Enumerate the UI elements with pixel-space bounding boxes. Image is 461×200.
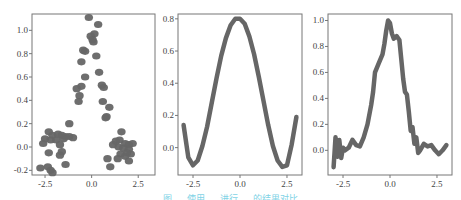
scatter-point [36,164,44,171]
scatter-point [117,128,125,135]
x-tick-label: -2.5 [38,179,53,189]
y-tick-label: 0.0 [163,143,175,153]
scatter-point [39,140,47,147]
x-tick-label: 0.0 [384,179,396,189]
scatter-point [56,152,64,159]
figure: -2.50.02.5-0.20.00.20.40.60.81.0 -2.50.0… [0,0,461,200]
y-tick-label: -0.2 [14,165,28,175]
scatter-point [106,163,114,170]
scatter-point [74,98,82,105]
scatter-point [100,84,108,91]
scatter-point [45,149,53,156]
x-tick-label: 2.5 [281,179,293,189]
scatter-point [81,48,89,55]
y-tick-label: 0.4 [163,78,175,88]
scatter-point [81,73,89,80]
scatter-point [73,85,81,92]
scatter-point [103,155,111,162]
y-tick-label: 0.4 [17,95,29,105]
y-tick-label: 0.6 [163,46,175,56]
axes-frame [178,14,302,175]
y-tick-label: 0.0 [17,142,29,152]
x-tick-label: 2.5 [133,179,145,189]
y-tick-label: 0.6 [313,67,325,77]
scatter-point [56,141,64,148]
y-tick-label: 1.0 [313,15,325,25]
scatter-point [99,98,107,105]
scatter-point [48,169,56,176]
scatter-point [69,134,77,141]
scatter-point [89,38,97,45]
scatter-point [114,155,122,162]
x-tick-label: 2.5 [431,179,443,189]
scatter-point [125,157,133,164]
data-line [334,21,447,168]
x-tick-label: 0.0 [86,179,98,189]
scatter-point [61,161,69,168]
y-tick-label: 0.6 [17,72,29,82]
scatter-point [77,58,85,65]
x-tick-label: -2.5 [186,179,201,189]
y-tick-label: 0.8 [313,41,325,51]
y-tick-label: 1.0 [17,25,29,35]
y-tick-label: 0.4 [313,93,325,103]
y-tick-label: 0.8 [163,14,175,24]
chart-canvas: -2.50.02.5-0.20.00.20.40.60.81.0 -2.50.0… [0,0,461,200]
figure-caption: 图 … 使用 … 进行 … 的结果对比 [0,193,461,200]
y-tick-label: 0.2 [313,119,324,129]
x-tick-label: 0.0 [234,179,246,189]
panel-noisy-curve: -2.50.02.50.00.20.40.60.81.0 [313,14,452,189]
scatter-point [65,120,73,127]
scatter-point [101,114,109,121]
y-tick-label: 0.2 [163,110,174,120]
scatter-point [105,104,113,111]
data-line [184,19,297,167]
panel-smooth-curve: -2.50.02.50.00.20.40.60.8 [163,14,302,189]
scatter-point [94,21,102,28]
y-tick-label: 0.0 [313,145,325,155]
scatter-point [92,52,100,59]
panel-scatter: -2.50.02.5-0.20.00.20.40.60.81.0 [14,14,155,189]
y-tick-label: 0.8 [17,49,29,59]
scatter-point [85,14,93,21]
y-tick-label: 0.2 [17,119,28,129]
x-tick-label: -2.5 [336,179,351,189]
scatter-point [95,69,103,76]
